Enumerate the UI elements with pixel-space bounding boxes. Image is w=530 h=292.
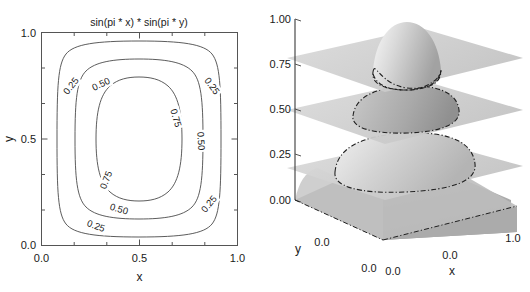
surface-y-tick-label: 0.0 (361, 262, 376, 274)
contour-y-tick-label: 1.0 (21, 27, 36, 39)
contour-x-tick-label: 0.0 (34, 252, 49, 264)
surface-z-tick-label: 1.00 (270, 13, 291, 25)
contour-top-ticks (42, 33, 238, 39)
surface-x-tick-label: 0.0 (385, 265, 400, 277)
surface-body-lower (335, 133, 475, 193)
contour-plot-svg: sin(pi * x) * sin(pi * y) (0, 0, 265, 292)
contour-x-axis-title: x (137, 270, 143, 284)
surface-z-tick-label: 0.00 (270, 194, 291, 206)
surface-z-tick-label: 0.25 (270, 148, 291, 160)
contour-inline-label: 0.50 (195, 131, 207, 150)
contour-y-axis-title: y (2, 136, 16, 142)
surface-x-tick-label: 1.0 (505, 232, 520, 244)
figure-root: sin(pi * x) * sin(pi * y) (0, 0, 530, 292)
surface-plot-svg: 1.00 0.75 0.50 0.25 0.00 z 0.0 0.0 y 0.0… (265, 0, 530, 292)
contour-plot-title: sin(pi * x) * sin(pi * y) (90, 16, 187, 28)
contour-inline-label: 0.25 (86, 217, 107, 234)
surface-x-axis-title: x (449, 264, 455, 278)
contour-inline-label: 0.75 (168, 107, 184, 128)
surface-y-axis-title: y (295, 242, 301, 256)
contour-x-ticks (42, 240, 238, 246)
surface-plot-panel: 1.00 0.75 0.50 0.25 0.00 z 0.0 0.0 y 0.0… (265, 0, 530, 292)
contour-inline-label: 0.50 (109, 201, 130, 217)
contour-inline-labels: 0.25 0.50 0.25 0.75 0.50 (59, 74, 223, 236)
surface-z-tick-label: 0.75 (270, 58, 291, 70)
contour-y-ticks (42, 33, 48, 246)
surface-y-tick-label: 0.0 (314, 236, 329, 248)
contour-plot-panel: sin(pi * x) * sin(pi * y) (0, 0, 265, 292)
surface-z-tick-label: 0.50 (270, 103, 291, 115)
contour-y-tick-label: 0.0 (21, 239, 36, 251)
contour-x-tick-label: 1.0 (230, 252, 245, 264)
contour-right-ticks (232, 33, 238, 246)
surface-x-tick-label: 0.0 (442, 249, 457, 261)
contour-y-tick-label: 0.5 (21, 133, 36, 145)
contour-x-tick-label: 0.5 (132, 252, 147, 264)
